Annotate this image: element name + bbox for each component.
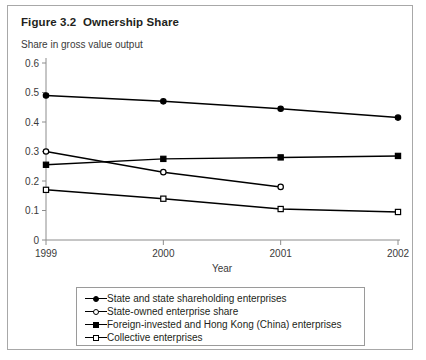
data-point-marker — [278, 155, 283, 160]
y-tick-label: 0.3 — [25, 146, 39, 157]
legend-marker-filled-circle-icon — [85, 293, 107, 305]
data-point-marker — [278, 106, 283, 111]
legend-item[interactable]: State-owned enterprise share — [85, 305, 364, 318]
chart-legend: State and state shareholding enterprises… — [76, 287, 365, 346]
x-axis: 1999200020012002 — [35, 240, 410, 259]
data-point-marker — [43, 187, 48, 192]
figure-frame: Figure 3.2 Ownership Share Share in gros… — [7, 5, 413, 350]
legend-item-label: Foreign-invested and Hong Kong (China) e… — [107, 319, 342, 331]
y-tick-label: 0.4 — [25, 117, 39, 128]
y-tick-label: 0.6 — [25, 58, 39, 69]
data-point-marker — [395, 209, 400, 214]
legend-item[interactable]: State and state shareholding enterprises — [85, 292, 364, 305]
x-axis-title: Year — [212, 263, 233, 274]
data-point-marker — [161, 196, 166, 201]
y-tick-label: 0 — [33, 235, 39, 246]
legend-item-label: Collective enterprises — [107, 332, 203, 344]
data-point-marker — [395, 153, 400, 158]
y-tick-label: 0.1 — [25, 205, 39, 216]
data-point-marker — [278, 206, 283, 211]
legend-item-label: State and state shareholding enterprises — [107, 293, 287, 305]
legend-marker-open-square-icon — [85, 332, 107, 344]
x-tick-label: 2002 — [387, 248, 410, 259]
data-point-marker — [161, 169, 166, 174]
data-point-marker — [43, 162, 48, 167]
data-point-marker — [395, 115, 400, 120]
x-tick-label: 2001 — [270, 248, 293, 259]
series-line — [46, 190, 398, 212]
data-point-marker — [161, 156, 166, 161]
data-point-marker — [43, 93, 48, 98]
legend-item[interactable]: Collective enterprises — [85, 331, 364, 344]
y-tick-label: 0.5 — [25, 87, 39, 98]
series-line — [46, 95, 398, 117]
y-tick-label: 0.2 — [25, 176, 39, 187]
legend-marker-open-circle-icon — [85, 306, 107, 318]
chart-series-group — [43, 93, 400, 215]
x-tick-label: 1999 — [35, 248, 58, 259]
data-point-marker — [161, 99, 166, 104]
legend-item-label: State-owned enterprise share — [107, 306, 238, 318]
x-tick-label: 2000 — [152, 248, 175, 259]
data-point-marker — [278, 184, 283, 189]
data-point-marker — [43, 149, 48, 154]
legend-marker-filled-square-icon — [85, 319, 107, 331]
legend-item[interactable]: Foreign-invested and Hong Kong (China) e… — [85, 318, 364, 331]
